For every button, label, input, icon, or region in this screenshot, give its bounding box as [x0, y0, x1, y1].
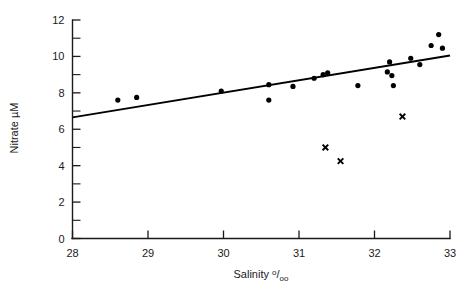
data-point-dot	[417, 62, 422, 67]
x-tick-label-30: 30	[217, 247, 229, 259]
x-tick-label-33: 33	[444, 247, 456, 259]
data-point-dot	[408, 56, 413, 61]
data-point-dot	[266, 98, 271, 103]
x-tick-label-31: 31	[293, 247, 305, 259]
data-point-dot	[389, 73, 394, 78]
data-point-dot	[429, 43, 434, 48]
y-tick-label-8: 8	[58, 87, 64, 99]
data-point-cross	[323, 145, 329, 151]
y-tick-label-10: 10	[52, 50, 64, 62]
y-tick-label-0: 0	[58, 233, 64, 245]
data-point-dot	[219, 88, 224, 93]
y-tick-label-12: 12	[52, 14, 64, 26]
data-point-cross	[338, 158, 344, 164]
data-points-dots	[115, 32, 445, 103]
x-tick-label-29: 29	[142, 247, 154, 259]
data-point-dot	[290, 84, 295, 89]
y-axis-tick-labels: 024681012	[52, 14, 64, 245]
data-point-dot	[440, 46, 445, 51]
axes-group	[72, 20, 450, 239]
data-points-crosses	[323, 114, 406, 164]
data-point-dot	[436, 32, 441, 37]
x-axis-major-ticks	[73, 231, 451, 239]
data-point-cross	[400, 114, 406, 120]
y-axis-major-ticks	[73, 20, 81, 239]
y-tick-label-4: 4	[58, 160, 64, 172]
x-tick-label-28: 28	[66, 247, 78, 259]
data-point-dot	[134, 95, 139, 100]
data-point-dot	[387, 59, 392, 64]
nitrate-salinity-scatter-figure: 024681012 282930313233 Salinity o/oo Nit…	[0, 0, 469, 291]
x-axis-tick-labels: 282930313233	[66, 247, 456, 259]
data-point-dot	[325, 70, 330, 75]
x-axis-title: Salinity o/oo	[234, 268, 289, 283]
data-point-dot	[391, 83, 396, 88]
y-tick-label-6: 6	[58, 123, 64, 135]
data-point-dot	[321, 72, 326, 77]
data-point-dot	[266, 82, 271, 87]
data-point-dot	[312, 76, 317, 81]
data-point-dot	[115, 98, 120, 103]
x-tick-label-32: 32	[368, 247, 380, 259]
y-axis-title: Nitrate µM	[8, 103, 20, 154]
data-point-dot	[385, 69, 390, 74]
y-tick-label-2: 2	[58, 196, 64, 208]
plot-canvas: 024681012 282930313233 Salinity o/oo Nit…	[0, 0, 469, 291]
data-point-dot	[355, 83, 360, 88]
